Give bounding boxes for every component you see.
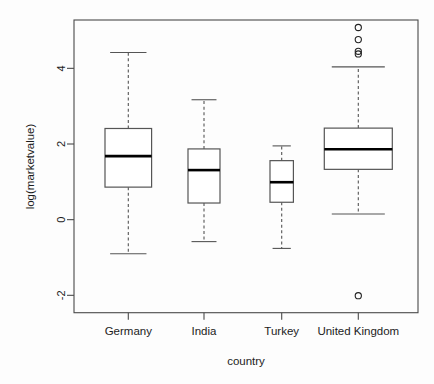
x-tick-label-turkey: Turkey (264, 325, 299, 337)
y-tick-label: -2 (55, 290, 67, 300)
box-turkey (270, 146, 293, 249)
y-axis: -2024 (55, 65, 74, 300)
y-axis-title: log(marketvalue) (24, 124, 36, 210)
y-tick-label: 2 (55, 141, 67, 147)
x-axis: GermanyIndiaTurkeyUnited Kingdom (105, 313, 400, 337)
box-india (188, 100, 220, 242)
outlier-point (355, 36, 361, 42)
box-series (105, 24, 392, 298)
x-tick-label-germany: Germany (105, 325, 153, 337)
outlier-point (355, 24, 361, 30)
x-tick-label-united-kingdom: United Kingdom (317, 325, 399, 337)
box-united-kingdom (324, 24, 392, 298)
box-rect (105, 128, 152, 187)
y-tick-label: 4 (55, 65, 67, 71)
box-germany (105, 52, 152, 253)
x-axis-title: country (227, 355, 265, 367)
box-rect (188, 149, 220, 203)
x-tick-label-india: India (192, 325, 218, 337)
boxplot-figure: -2024 GermanyIndiaTurkeyUnited Kingdom l… (0, 0, 434, 384)
outlier-point (355, 293, 361, 299)
chart-canvas: -2024 GermanyIndiaTurkeyUnited Kingdom l… (0, 0, 434, 384)
y-tick-label: 0 (55, 217, 67, 223)
